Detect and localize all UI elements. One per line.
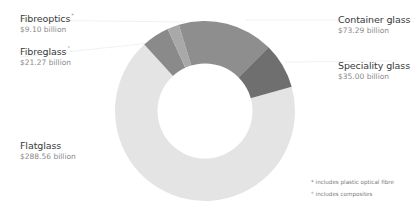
market-donut-chart: Fibreoptics* $9.10 billion Fibreglass° $… <box>0 0 418 211</box>
footnote-fibre: * includes plastic optical fibre <box>311 176 394 188</box>
footnote-marker-composites: ° <box>67 45 69 51</box>
label-fibreoptics: Fibreoptics* $9.10 billion <box>20 14 74 33</box>
label-container-value: $73.29 billion <box>338 27 410 35</box>
label-flatglass: Flatglass $288.56 billion <box>20 141 76 160</box>
label-flatglass-value: $288.56 billion <box>20 153 76 161</box>
label-flatglass-name: Flatglass <box>20 141 76 151</box>
label-fibreoptics-value: $9.10 billion <box>20 26 74 34</box>
footnotes: * includes plastic optical fibre ° inclu… <box>311 176 394 200</box>
footnote-marker-fibre: * <box>71 12 73 18</box>
label-container-name: Container glass <box>338 15 410 25</box>
label-fibreoptics-name: Fibreoptics <box>20 13 70 24</box>
label-fibreglass-name: Fibreglass <box>20 46 66 57</box>
label-speciality-value: $35.00 billion <box>338 73 410 81</box>
label-speciality-glass: Speciality glass $35.00 billion <box>338 61 410 80</box>
label-container-glass: Container glass $73.29 billion <box>338 15 410 34</box>
label-fibreglass-value: $21.27 billion <box>20 59 71 67</box>
donut-hole <box>158 64 253 159</box>
footnote-composites: ° includes composites <box>311 188 394 200</box>
label-speciality-name: Speciality glass <box>338 61 410 71</box>
label-fibreglass: Fibreglass° $21.27 billion <box>20 47 71 66</box>
